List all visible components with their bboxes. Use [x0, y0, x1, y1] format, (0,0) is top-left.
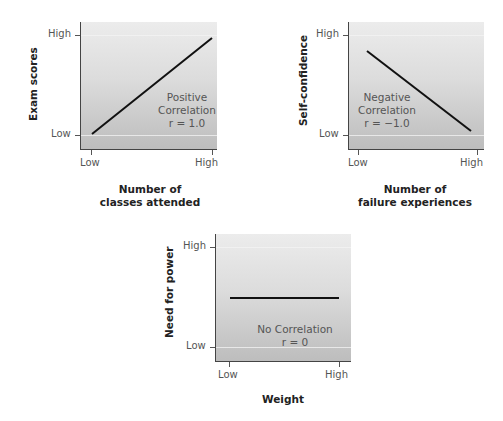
x-axis-label-line1: Weight	[243, 393, 323, 406]
x-tick-label-low: Low	[218, 369, 238, 380]
y-tick-label-high: High	[183, 240, 206, 251]
x-tick-label-high: High	[325, 369, 348, 380]
y-axis-label: Need for power	[163, 258, 175, 338]
x-axis-label: Weight	[243, 393, 323, 406]
correlation-annotation: No Correlation r = 0	[245, 323, 345, 349]
x-tick-low	[229, 362, 230, 367]
correlation-line	[0, 0, 503, 421]
y-tick-label-low: Low	[186, 340, 206, 351]
x-tick-high	[339, 362, 340, 367]
y-tick-low	[210, 347, 215, 348]
y-tick-high	[210, 247, 215, 248]
